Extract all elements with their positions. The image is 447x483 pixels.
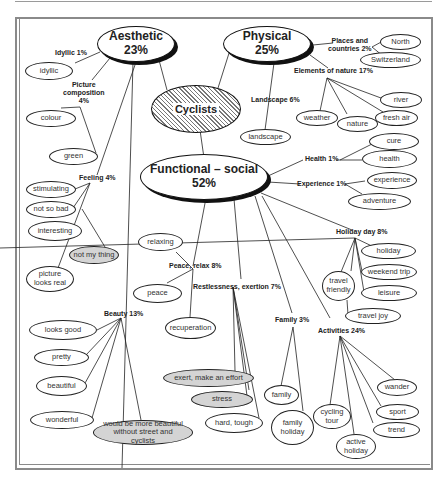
- leaf-nature: nature: [337, 116, 378, 132]
- leaf-more-beautiful-without-street: would be more beautiful without street a…: [93, 420, 193, 445]
- label-restlessness: Restlessness, exertion 7%: [193, 283, 281, 291]
- leaf-family-holiday: family holiday: [271, 410, 314, 445]
- category-physical: Physical 25%: [223, 26, 311, 62]
- label-holiday-day: Holiday day 8%: [336, 228, 387, 236]
- center-node-cyclists: Cyclists: [151, 85, 241, 133]
- center-label: Cyclists: [173, 103, 219, 116]
- label-health: Health 1%: [305, 155, 338, 163]
- leaf-family: family: [264, 385, 299, 405]
- label-landscape: Landscape 6%: [251, 96, 300, 104]
- label-experience: Experience 1%: [297, 180, 346, 188]
- category-percent: 25%: [255, 44, 279, 58]
- leaf-switzerland: Switzerland: [360, 52, 421, 68]
- category-title: Functional – social: [150, 163, 258, 177]
- leaf-exert-make-an-effort: exert, make an effort: [163, 369, 254, 387]
- label-line: 4%: [63, 97, 105, 105]
- leaf-travel-friendly: travel friendly: [322, 271, 355, 301]
- label-family: Family 3%: [275, 316, 309, 324]
- leaf-weather: weather: [296, 110, 338, 126]
- leaf-peace: peace: [133, 284, 182, 303]
- leaf-health: health: [362, 150, 417, 168]
- leaf-not-my-thing: not my thing: [69, 246, 119, 264]
- leaf-sport: sport: [376, 404, 419, 420]
- leaf-travel-joy: travel joy: [345, 308, 401, 324]
- leaf-stimulating: stimulating: [26, 181, 76, 198]
- label-feeling: Feeling 4%: [79, 174, 116, 182]
- label-line: countries 2%: [328, 45, 372, 53]
- category-title: Physical: [243, 30, 292, 44]
- leaf-idyllic: idyllic: [25, 62, 73, 80]
- leaf-adventure: adventure: [348, 193, 411, 210]
- label-peace-relax: Peace, relax 8%: [169, 262, 222, 270]
- leaf-active-holiday: active holiday: [336, 434, 376, 459]
- leaf-pretty: pretty: [34, 349, 89, 366]
- leaf-north: North: [380, 34, 421, 50]
- category-aesthetic: Aesthetic 23%: [97, 26, 175, 62]
- label-elements-of-nature: Elements of nature 17%: [294, 67, 373, 75]
- category-functional-social: Functional – social 52%: [140, 154, 268, 200]
- label-activities: Activities 24%: [318, 327, 365, 335]
- leaf-experience: experience: [367, 172, 417, 189]
- leaf-not-so-bad: not so bad: [26, 201, 76, 218]
- leaf-stress: stress: [191, 391, 253, 408]
- leaf-relaxing: relaxing: [138, 233, 183, 251]
- leaf-cycling-tour: cycling tour: [313, 404, 351, 429]
- leaf-river: river: [380, 92, 422, 108]
- leaf-leisure: leisure: [361, 285, 417, 301]
- category-percent: 52%: [192, 177, 216, 191]
- label-idyllic: Idyllic 1%: [55, 49, 87, 57]
- leaf-interesting: interesting: [28, 221, 82, 241]
- leaf-picture-looks-real: picture looks real: [26, 266, 74, 292]
- label-line: Places and: [328, 37, 372, 45]
- label-line: Picture: [63, 81, 105, 89]
- leaf-fresh-air: fresh air: [375, 110, 418, 126]
- leaf-cure: cure: [369, 133, 419, 150]
- label-places-countries: Places and countries 2%: [328, 37, 372, 53]
- leaf-holiday: holiday: [361, 243, 416, 259]
- leaf-wander: wander: [377, 379, 417, 396]
- category-title: Aesthetic: [109, 30, 163, 44]
- leaf-colour: colour: [26, 110, 76, 127]
- leaf-beautiful: beautiful: [36, 376, 87, 396]
- leaf-looks-good: looks good: [29, 320, 97, 340]
- label-picture-composition: Picture composition 4%: [63, 81, 105, 105]
- leaf-landscape: landscape: [240, 129, 291, 145]
- leaf-weekend-trip: weekend trip: [361, 264, 417, 280]
- category-percent: 23%: [124, 44, 148, 58]
- leaf-hard-tough: hard, tough: [205, 413, 263, 433]
- leaf-trend: trend: [373, 422, 420, 438]
- label-line: composition: [63, 89, 105, 97]
- leaf-wonderful: wonderful: [30, 411, 94, 429]
- leaf-green: green: [49, 148, 98, 165]
- label-beauty: Beauty 13%: [104, 310, 143, 318]
- leaf-recuperation: recuperation: [165, 317, 216, 339]
